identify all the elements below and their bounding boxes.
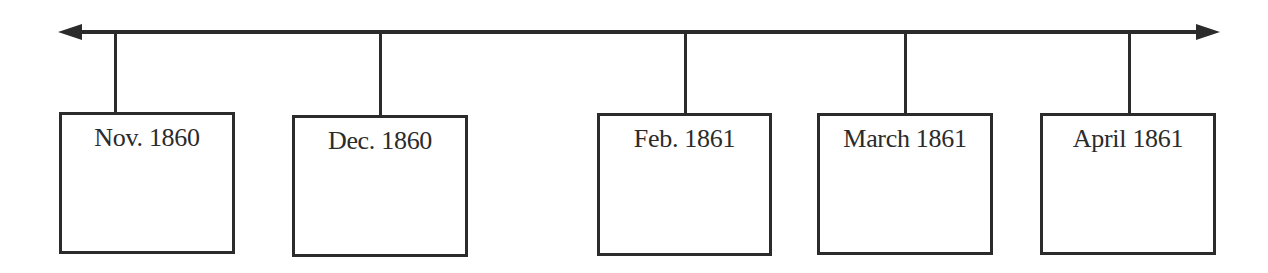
- timeline-diagram: Nov. 1860 Dec. 1860 Feb. 1861 March 1861…: [0, 0, 1268, 273]
- timeline-tick: [379, 32, 382, 116]
- event-date-label: Nov. 1860: [62, 123, 232, 153]
- timeline-event-box: Feb. 1861: [597, 113, 772, 256]
- event-date-label: Dec. 1860: [295, 126, 465, 156]
- event-date-label: April 1861: [1043, 124, 1213, 154]
- arrow-right-icon: [1196, 24, 1220, 40]
- timeline-tick: [114, 32, 117, 113]
- timeline-event-box: Dec. 1860: [292, 115, 468, 257]
- timeline-tick: [904, 32, 907, 114]
- timeline-tick: [684, 32, 687, 114]
- timeline-event-box: March 1861: [817, 113, 993, 255]
- timeline-tick: [1128, 32, 1131, 114]
- event-date-label: March 1861: [820, 124, 990, 154]
- timeline-event-box: April 1861: [1040, 113, 1216, 255]
- event-date-label: Feb. 1861: [600, 124, 769, 154]
- timeline-event-box: Nov. 1860: [59, 112, 235, 254]
- timeline-axis: [70, 30, 1208, 34]
